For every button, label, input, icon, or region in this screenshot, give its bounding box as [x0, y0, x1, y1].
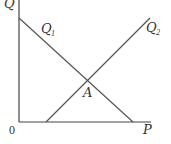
line-q1 [19, 18, 133, 122]
origin-label: 0 [9, 123, 15, 137]
y-axis-label: Q [4, 0, 15, 11]
q2-subscript: 2 [156, 28, 160, 37]
q1-subscript: 1 [51, 29, 55, 38]
diagram-canvas: Q 0 P Q 1 Q 2 A [0, 0, 171, 144]
x-axis-label: P [142, 122, 152, 137]
intersection-label: A [82, 85, 92, 100]
line-q2 [46, 18, 150, 122]
